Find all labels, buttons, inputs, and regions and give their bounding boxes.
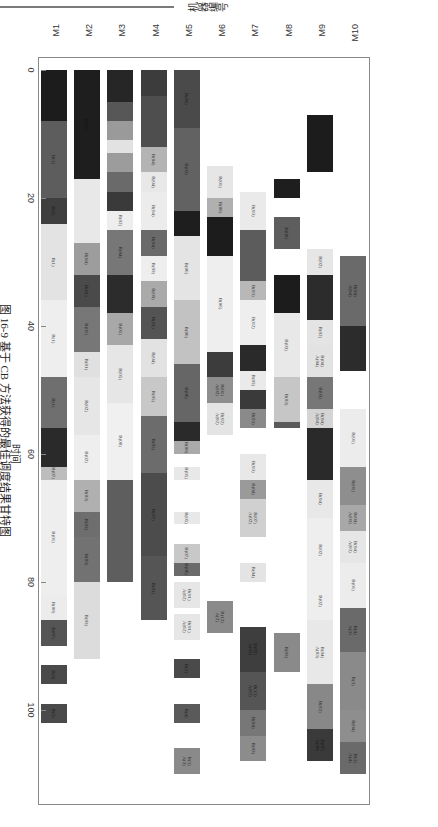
task-label: B(06)	[184, 563, 189, 575]
task-label: B(1)	[51, 257, 56, 266]
task-label: B(1)	[184, 664, 189, 673]
task-label: B(3)	[351, 677, 356, 686]
task-label: B(06)	[184, 263, 189, 275]
task-label: B(02) A(02)	[248, 643, 258, 655]
task-bar-m5: B(01) A(02)	[174, 614, 200, 640]
task-label: B(08)	[118, 435, 123, 447]
task-bar-m1: B(1)	[41, 224, 67, 301]
task-label: B(03)	[284, 339, 289, 351]
y-axis-label: 机器编号	[188, 0, 228, 15]
task-label: B(03)	[251, 413, 256, 425]
task-label: B(04) A(04)	[348, 285, 358, 297]
task-label: B(02)	[251, 317, 256, 329]
task-bar-m3	[107, 102, 133, 121]
task-bar-m9	[307, 275, 333, 320]
task-bar-m1: B(01)	[41, 480, 67, 595]
task-bar-m5: B(1)	[174, 659, 200, 678]
task-label: B(03)	[84, 615, 89, 627]
task-bar-m10: B(04) A(04)	[340, 256, 366, 326]
task-label: B(04) A(03)	[348, 512, 358, 524]
task-label: B(04)	[251, 717, 256, 729]
x-tick-mark	[41, 326, 46, 327]
task-bar-m4: B(05)	[141, 377, 167, 415]
task-label: B(07)	[51, 467, 56, 479]
x-tick-mark	[41, 582, 46, 583]
task-bar-m4: B(01)	[141, 556, 167, 620]
task-bar-m10: B(04) A(03)	[340, 531, 366, 563]
task-label: B(05)	[118, 323, 123, 335]
task-label: B(1)	[51, 398, 56, 407]
task-label: B(3)	[51, 709, 56, 718]
task-bar-m7	[240, 230, 266, 281]
task-bar-m6: B(12) A(2)	[207, 601, 233, 633]
task-bar-m3	[107, 153, 133, 172]
task-bar-m5: B(07)	[174, 544, 200, 563]
task-bar-m1	[41, 428, 67, 466]
task-bar-m9: B(02)	[307, 684, 333, 729]
task-label: B(03)	[251, 285, 256, 297]
task-bar-m7: B(02) A(02)	[240, 627, 266, 672]
task-bar-m6: B(02) A(02)	[207, 403, 233, 435]
task-bar-m1: B(07)	[41, 467, 67, 480]
task-label: B(08)	[184, 442, 189, 454]
task-bar-m4	[141, 96, 167, 147]
task-label: B(04)	[251, 483, 256, 495]
task-label: B(07)	[51, 627, 56, 639]
task-bar-m7	[240, 345, 266, 371]
task-bar-m5: B(06)	[174, 236, 200, 300]
x-tick-mark	[41, 710, 46, 711]
machine-label-m9: M9	[317, 24, 327, 54]
task-label: B(04)	[151, 205, 156, 217]
task-label: B(07) A(02)	[248, 512, 258, 524]
task-bar-m5: B(05)	[174, 512, 200, 525]
task-bar-m8: B(03)	[274, 313, 300, 377]
task-label: B(01) A(02)	[182, 621, 192, 633]
task-bar-m5	[174, 211, 200, 237]
task-bar-m3	[107, 172, 133, 191]
task-label: B(02)	[318, 544, 323, 556]
task-bar-m2: B(03)	[74, 582, 100, 659]
task-bar-m1: B(07)	[41, 620, 67, 646]
task-label: B(05)	[184, 512, 189, 524]
task-bar-m10: B(04) A(03)	[340, 505, 366, 531]
task-bar-m4: B(04)	[141, 230, 167, 256]
task-bar-m3	[107, 192, 133, 211]
task-bar-m3: B(04)	[107, 230, 133, 275]
task-label: B(01)	[84, 359, 89, 371]
task-bar-m9: B(04) A(03)	[307, 620, 333, 684]
task-bar-m7	[240, 390, 266, 409]
task-bar-m2: B(04)	[74, 243, 100, 275]
task-bar-m8	[274, 179, 300, 198]
task-bar-m7: B(03)	[240, 371, 266, 390]
task-label: B(01)	[84, 323, 89, 335]
task-label: B(3)	[51, 670, 56, 679]
task-label: B(04)	[318, 493, 323, 505]
task-bar-m10	[340, 326, 366, 371]
task-bar-m7: B(03)	[240, 454, 266, 480]
task-label: B(03)	[84, 490, 89, 502]
task-bar-m10: B(4) A(3)	[340, 608, 366, 653]
task-bar-m1	[41, 70, 67, 121]
task-label: B(06)	[184, 327, 189, 339]
task-bar-m5: B(4)	[174, 704, 200, 723]
task-label: B(01)	[218, 176, 223, 188]
task-label: B(03)	[84, 519, 89, 531]
task-bar-m7: B(13) A(02)	[240, 672, 266, 710]
task-label: B(02) A(02)	[215, 413, 225, 425]
task-bar-m10: B(01)	[340, 467, 366, 505]
task-bar-m7: B(04)	[240, 480, 266, 499]
task-bar-m5: B(08)	[174, 441, 200, 454]
task-bar-m10: B(04)	[340, 710, 366, 742]
task-label: B(01)	[151, 317, 156, 329]
task-label: B(06)	[184, 387, 189, 399]
task-label: B(02)	[318, 327, 323, 339]
task-bar-m5: B(05)	[174, 467, 200, 480]
task-bar-m9: B(03)	[307, 377, 333, 409]
task-bar-m3	[107, 480, 133, 582]
task-bar-m10: B(01)	[340, 563, 366, 608]
figure-caption: 图 16-9 基于 CB 方法获得的最佳调度结果甘特图	[0, 304, 14, 537]
machine-label-m4: M4	[151, 24, 161, 54]
task-label: B(03)	[251, 375, 256, 387]
task-bar-m1: B(3)	[41, 665, 67, 684]
task-label: B(02)	[84, 400, 89, 412]
